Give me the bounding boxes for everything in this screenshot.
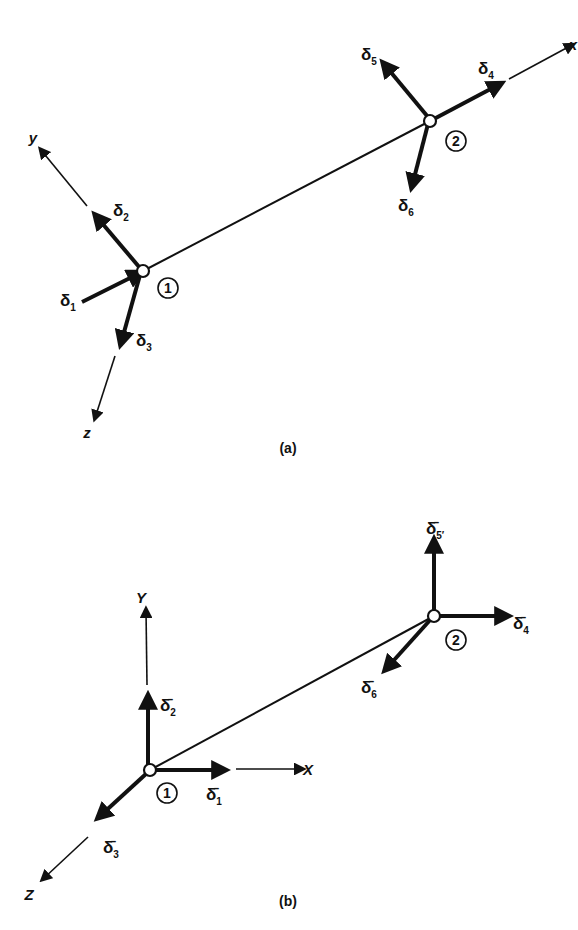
axis-y-arrow-icon — [41, 150, 87, 206]
delta-subscript: 6 — [408, 207, 414, 218]
delta3bar-label: δ̄3 — [103, 838, 119, 860]
delta-subscript: 5 — [371, 56, 377, 67]
axis-Y-label: Y — [136, 589, 148, 606]
delta-subscript: 6 — [371, 689, 377, 700]
figure-b-global-coordinates: YXZδ̄1δ̄2δ̄3δ̄4δ̄5′δ̄612 — [23, 519, 529, 903]
delta-subscript: 1 — [70, 302, 76, 313]
member-line — [150, 616, 434, 770]
delta-subscript: 4 — [488, 70, 494, 81]
node-2-number: 2 — [452, 133, 460, 149]
delta4bar-label: δ̄4 — [513, 614, 529, 636]
delta5-label: δ5 — [361, 45, 377, 67]
delta5bar-label: δ̄5′ — [426, 519, 445, 541]
delta4-arrow-icon — [432, 84, 500, 120]
delta-symbol: δ — [361, 45, 371, 64]
axis-x-label: x — [568, 36, 578, 53]
axis-x-arrow-icon — [509, 45, 572, 79]
node-1-number: 1 — [163, 785, 171, 801]
figure-a-caption: (a) — [279, 440, 296, 456]
delta-symbol: δ — [60, 291, 70, 310]
delta1bar-label: δ̄1 — [206, 785, 222, 807]
delta-subscript: 5′ — [436, 530, 445, 541]
delta-subscript: 3 — [146, 342, 152, 353]
figure-b-caption: (b) — [279, 893, 297, 909]
delta-subscript: 2 — [123, 212, 129, 223]
delta1-arrow-icon — [82, 273, 140, 302]
delta3-label: δ3 — [136, 331, 152, 353]
axis-Y-arrow-icon — [146, 610, 147, 685]
node-2-joint-icon — [428, 610, 440, 622]
delta5-arrow-icon — [384, 64, 428, 117]
beam-element-diagram: yzxδ1δ2δ3δ4δ5δ612 (a) YXZδ̄1δ̄2δ̄3δ̄4δ̄5… — [0, 0, 578, 930]
axis-Z-label: Z — [23, 886, 34, 903]
delta6bar-arrow-icon — [386, 619, 431, 669]
delta2bar-label: δ̄2 — [160, 696, 176, 718]
axis-y-label: y — [28, 129, 38, 146]
delta2-label: δ2 — [113, 201, 129, 223]
delta-symbol: δ — [136, 331, 146, 350]
delta-subscript: 2 — [170, 707, 176, 718]
axis-Z-arrow-icon — [43, 837, 88, 879]
delta4-label: δ4 — [478, 59, 494, 81]
delta-subscript: 3 — [113, 849, 119, 860]
figure-a-local-coordinates: yzxδ1δ2δ3δ4δ5δ612 — [28, 36, 578, 441]
delta2-arrow-icon — [96, 216, 140, 268]
axis-z-arrow-icon — [95, 356, 115, 418]
axis-z-label: z — [82, 424, 91, 441]
node-1-joint-icon — [137, 265, 149, 277]
delta-symbol: δ — [478, 59, 488, 78]
delta3bar-arrow-icon — [99, 773, 147, 817]
delta-subscript: 4 — [523, 625, 529, 636]
axis-X-label: X — [302, 761, 314, 778]
delta-symbol: δ — [398, 196, 408, 215]
delta-symbol: δ — [113, 201, 123, 220]
node-1-joint-icon — [144, 764, 156, 776]
node-1-number: 1 — [164, 280, 172, 296]
node-2-joint-icon — [424, 115, 436, 127]
delta1-label: δ1 — [60, 291, 76, 313]
delta6bar-label: δ̄6 — [361, 678, 377, 700]
member-line — [143, 121, 430, 271]
delta6-arrow-icon — [412, 124, 428, 186]
delta6-label: δ6 — [398, 196, 414, 218]
node-2-number: 2 — [452, 632, 460, 648]
delta-subscript: 1 — [216, 796, 222, 807]
